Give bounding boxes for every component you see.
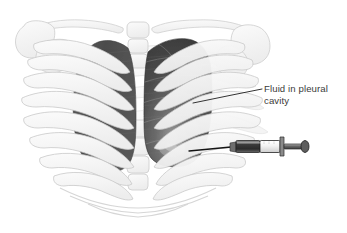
syringe-highlight (237, 142, 279, 144)
syringe-flange (280, 137, 284, 156)
syringe-plunger-rod (284, 144, 303, 149)
anatomy-illustration (0, 0, 347, 233)
callout-label: Fluid in pleural cavity (264, 83, 346, 107)
syringe-hub (230, 142, 236, 152)
syringe-thumb-rest (301, 141, 309, 153)
thoracentesis-figure: Fluid in pleural cavity (0, 0, 347, 233)
